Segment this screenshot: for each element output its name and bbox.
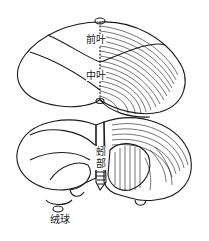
label-anterior-lobe: 前叶 (86, 34, 106, 45)
label-vermis: 蚓部 (95, 146, 106, 170)
label-flocculus: 绒球 (50, 214, 70, 225)
label-middle-lobe: 中叶 (86, 70, 106, 81)
top-view (18, 18, 186, 117)
